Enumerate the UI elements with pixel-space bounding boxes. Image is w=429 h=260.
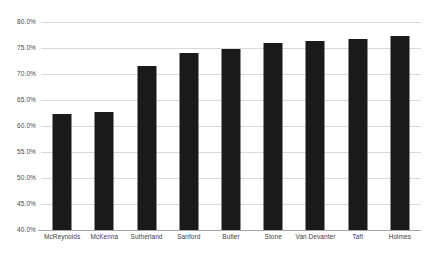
bar-chart: 40.0%45.0%50.0%55.0%60.0%65.0%70.0%75.0%… [0, 0, 429, 260]
y-tick-label: 50.0% [17, 175, 36, 182]
y-tick-label: 65.0% [17, 97, 36, 104]
y-tick-label: 80.0% [17, 19, 36, 26]
y-tick-label: 55.0% [17, 149, 36, 156]
x-tick-label: Taft [337, 234, 379, 241]
y-tick-label: 40.0% [17, 227, 36, 234]
y-tick-label: 70.0% [17, 71, 36, 78]
y-tick-label: 60.0% [17, 123, 36, 130]
y-tick-label: 45.0% [17, 201, 36, 208]
x-tick-label: Holmes [379, 234, 421, 241]
x-tick-label: McReynolds [41, 234, 83, 241]
y-axis: 40.0%45.0%50.0%55.0%60.0%65.0%70.0%75.0%… [0, 0, 36, 260]
x-tick-label: Van Devanter [294, 234, 336, 241]
x-tick-label: Sanford [168, 234, 210, 241]
y-tick-label: 75.0% [17, 45, 36, 52]
x-axis: McReynoldsMcKennaSutherlandSanfordButler… [41, 0, 421, 260]
x-tick-label: McKenna [83, 234, 125, 241]
x-tick-label: Sutherland [125, 234, 167, 241]
x-tick-label: Stone [252, 234, 294, 241]
x-tick-label: Butler [210, 234, 252, 241]
